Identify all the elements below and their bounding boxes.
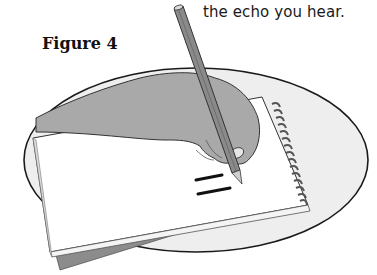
writing-illustration [0, 0, 377, 275]
